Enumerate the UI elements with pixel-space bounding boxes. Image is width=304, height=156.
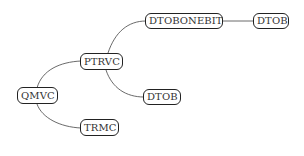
node-dtob-right[interactable]: DTOB	[253, 13, 289, 29]
node-label: DTOBONEBIT	[149, 15, 223, 26]
edge-ptrvc-dtobonebit	[108, 21, 146, 53]
node-label: DTOB	[147, 91, 178, 102]
node-qmvc[interactable]: QMVC	[17, 87, 58, 104]
node-label: TRMC	[84, 122, 117, 133]
node-dtob-mid[interactable]: DTOB	[143, 89, 181, 105]
edge-qmvc-ptrvc	[37, 61, 81, 88]
edge-ptrvc-dtob	[106, 70, 144, 97]
node-ptrvc[interactable]: PTRVC	[80, 53, 123, 70]
node-dtobonebit[interactable]: DTOBONEBIT	[145, 13, 223, 29]
node-label: DTOB	[257, 15, 288, 26]
node-label: QMVC	[21, 90, 55, 101]
node-label: PTRVC	[84, 56, 120, 67]
node-trmc[interactable]: TRMC	[80, 119, 119, 136]
edge-qmvc-trmc	[37, 104, 81, 128]
